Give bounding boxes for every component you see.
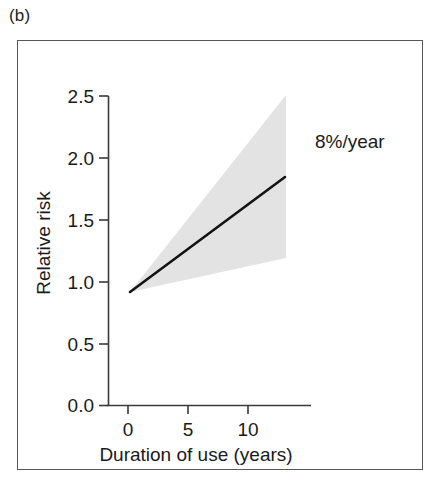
y-axis-title: Relative risk — [33, 191, 54, 295]
y-tick-label-3: 1.5 — [68, 210, 94, 231]
y-tick-label-5: 2.5 — [68, 86, 94, 107]
x-tick-label-2: 10 — [237, 419, 258, 440]
x-axis-title: Duration of use (years) — [99, 444, 292, 465]
y-tick-label-1: 0.5 — [68, 334, 94, 355]
chart-canvas: 2.5 2.0 1.5 1.0 0.5 0.0 0 5 10 Duration … — [0, 0, 439, 484]
x-tick-label-0: 0 — [123, 419, 134, 440]
rate-annotation: 8%/year — [315, 131, 385, 152]
y-tick-label-2: 1.0 — [68, 272, 94, 293]
y-tick-label-0: 0.0 — [68, 395, 94, 416]
figure-root: (b) 2.5 2.0 1.5 1.0 0.5 0.0 0 5 10 — [0, 0, 439, 484]
y-tick-label-4: 2.0 — [68, 148, 94, 169]
x-tick-label-1: 5 — [183, 419, 194, 440]
